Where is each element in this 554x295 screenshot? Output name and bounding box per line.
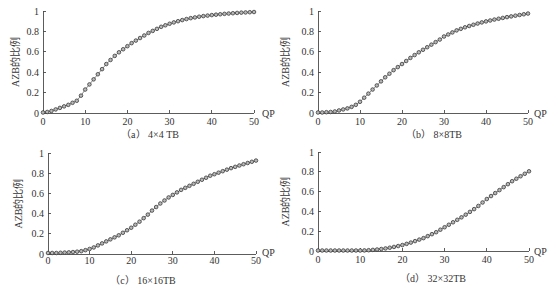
y-tick-label: 0 [34, 108, 39, 119]
x-tick-label: 20 [126, 255, 136, 266]
data-point-circle-icon [367, 92, 371, 96]
data-point-circle-icon [171, 193, 175, 197]
data-point-circle-icon [514, 14, 518, 18]
data-point-circle-icon [79, 249, 83, 253]
data-point-circle-icon [367, 248, 371, 252]
data-point-circle-icon [392, 68, 396, 72]
data-point-circle-icon [117, 234, 121, 238]
data-point-circle-icon [204, 176, 208, 180]
x-tick-label: 50 [251, 255, 261, 266]
data-point-circle-icon [235, 11, 239, 15]
y-tick-label: 1 [34, 6, 39, 17]
data-point-circle-icon [434, 40, 438, 44]
data-point-circle-icon [523, 172, 527, 176]
data-point-circle-icon [151, 29, 155, 33]
data-point-circle-icon [196, 180, 200, 184]
data-point-circle-icon [183, 186, 187, 190]
data-point-circle-icon [413, 239, 417, 243]
data-point-circle-icon [105, 62, 109, 66]
data-point-circle-icon [467, 24, 471, 28]
data-point-circle-icon [50, 109, 54, 113]
data-point-circle-icon [375, 248, 379, 252]
y-axis-label: AZB的比例 [12, 179, 24, 229]
series-line [43, 12, 254, 112]
data-point-circle-icon [134, 223, 138, 227]
x-tick-label: 30 [439, 116, 449, 127]
y-axis-label: AZB的比例 [279, 37, 291, 87]
data-point-circle-icon [45, 110, 49, 114]
x-tick-label: 40 [209, 255, 219, 266]
data-point-circle-icon [354, 103, 358, 107]
data-point-circle-icon [337, 109, 341, 113]
data-point-circle-icon [451, 31, 455, 35]
data-point-circle-icon [459, 27, 463, 31]
panel-caption: （d） 32×32TB [400, 273, 466, 284]
data-point-circle-icon [130, 41, 134, 45]
data-point-circle-icon [231, 11, 235, 15]
data-point-circle-icon [388, 72, 392, 76]
data-point-circle-icon [176, 19, 180, 23]
data-point-circle-icon [225, 168, 229, 172]
data-point-circle-icon [426, 234, 430, 238]
data-point-circle-icon [125, 228, 129, 232]
data-point-circle-icon [163, 199, 167, 203]
data-point-circle-icon [126, 44, 130, 48]
data-point-circle-icon [238, 164, 242, 168]
data-point-circle-icon [505, 15, 509, 19]
y-tick-label: 0.6 [302, 46, 315, 57]
data-point-circle-icon [155, 27, 159, 31]
x-tick-label: 20 [397, 254, 407, 265]
x-tick-label: 40 [482, 254, 492, 265]
data-point-circle-icon [519, 174, 523, 178]
data-point-circle-icon [320, 249, 324, 253]
x-tick-label: 0 [46, 255, 51, 266]
y-tick-label: 0.4 [302, 67, 315, 78]
data-point-circle-icon [154, 205, 158, 209]
data-point-circle-icon [96, 72, 100, 76]
data-point-circle-icon [481, 201, 485, 205]
data-point-circle-icon [197, 15, 201, 19]
data-point-circle-icon [50, 251, 54, 255]
data-point-circle-icon [168, 22, 172, 26]
data-point-circle-icon [55, 251, 59, 255]
data-point-circle-icon [59, 251, 63, 255]
series-line [318, 14, 528, 113]
y-tick-label: 0.8 [32, 168, 45, 179]
x-tick-label: 10 [85, 255, 95, 266]
data-point-circle-icon [217, 171, 221, 175]
data-point-circle-icon [121, 231, 125, 235]
x-tick-label: 50 [524, 254, 534, 265]
data-point-circle-icon [447, 223, 451, 227]
x-tick-label: 20 [122, 116, 132, 127]
data-point-circle-icon [425, 45, 429, 49]
data-point-circle-icon [189, 16, 193, 20]
series-markers [316, 12, 530, 115]
y-tick-label: 0 [309, 108, 314, 119]
data-point-circle-icon [242, 162, 246, 166]
data-point-circle-icon [446, 33, 450, 37]
data-point-circle-icon [229, 166, 233, 170]
data-point-circle-icon [510, 179, 514, 183]
data-point-circle-icon [363, 249, 367, 253]
data-point-circle-icon [422, 236, 426, 240]
data-point-circle-icon [92, 78, 96, 82]
data-point-circle-icon [380, 247, 384, 251]
x-tick-label: 30 [440, 254, 450, 265]
data-point-circle-icon [401, 243, 405, 247]
data-point-circle-icon [71, 101, 75, 105]
y-tick-label: 0.8 [302, 166, 315, 177]
data-point-circle-icon [192, 182, 196, 186]
data-point-circle-icon [498, 188, 502, 192]
x-tick-label: 50 [523, 116, 533, 127]
y-tick-label: 0.2 [302, 226, 315, 237]
x-tick-label: 20 [397, 116, 407, 127]
data-point-circle-icon [329, 249, 333, 253]
data-point-circle-icon [325, 110, 329, 114]
data-point-circle-icon [316, 249, 320, 253]
data-point-circle-icon [493, 18, 497, 22]
data-point-circle-icon [506, 182, 510, 186]
data-point-circle-icon [240, 11, 244, 15]
data-point-circle-icon [455, 29, 459, 33]
data-point-circle-icon [526, 12, 530, 16]
data-point-circle-icon [104, 240, 108, 244]
